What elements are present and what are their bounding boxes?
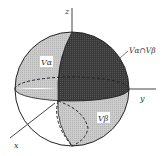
label-intersection: Vα∩Vβ	[129, 46, 156, 55]
label-v-beta: Vβ	[98, 114, 109, 123]
region-intersection	[58, 32, 129, 101]
x-axis	[10, 103, 55, 138]
label-v-alpha: Vα	[41, 58, 53, 67]
sphere-diagram: z y x Vα Vβ Vα∩Vβ	[0, 0, 164, 156]
x-axis-label: x	[14, 141, 19, 150]
intersection-leader	[120, 51, 128, 58]
z-axis-label: z	[64, 7, 70, 16]
y-axis-label: y	[139, 94, 145, 103]
